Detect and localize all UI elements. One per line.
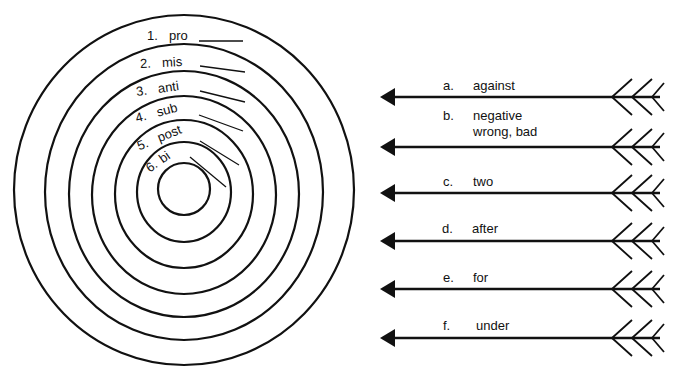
prefix-2: 2.mis (140, 55, 183, 71)
meaning-text: against (473, 78, 515, 93)
meaning-letter: f. (443, 318, 476, 334)
meaning-f: f.under (443, 318, 509, 334)
prefix-text: anti (157, 78, 180, 96)
ring-1 (14, 15, 354, 365)
meaning-a: a.against (443, 78, 515, 94)
meaning-b-line2: wrong, bad (473, 124, 537, 140)
prefix-number: 1. (147, 29, 169, 43)
ring-2 (45, 44, 323, 340)
arrow-c (380, 175, 664, 211)
prefix-1: 1.pro (147, 29, 188, 43)
meaning-letter: e. (443, 270, 473, 286)
ring-4 (92, 96, 276, 294)
meaning-letter: b. (443, 108, 473, 124)
meaning-text: under (476, 318, 509, 333)
meaning-e: e.for (443, 270, 488, 286)
prefix-number: 2. (140, 56, 163, 71)
meaning-letter: d. (442, 221, 472, 237)
meaning-letter: a. (443, 78, 473, 94)
ring-center (158, 163, 210, 215)
target-rings (14, 15, 354, 365)
prefix-text: pro (169, 28, 188, 43)
meaning-letter: c. (443, 174, 473, 190)
prefix-text: mis (162, 54, 183, 70)
diagram-graphics (0, 0, 685, 381)
arrow-f (380, 320, 664, 356)
arrow-d (380, 223, 664, 259)
meaning-text: after (472, 221, 498, 236)
meaning-text: negative (473, 108, 522, 123)
meaning-text: for (473, 270, 488, 285)
meaning-b: b.negative (443, 108, 522, 124)
meaning-text: wrong, bad (473, 124, 537, 139)
meaning-d: d.after (442, 221, 498, 237)
meaning-text: two (473, 174, 493, 189)
ring-3 (69, 71, 299, 317)
arrow-e (380, 271, 664, 307)
meaning-c: c.two (443, 174, 493, 190)
